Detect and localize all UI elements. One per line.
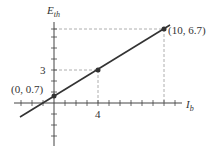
y-tick-label-3: 3: [40, 64, 46, 76]
point-4-3: [96, 68, 101, 73]
x-axis-label: Ib: [185, 98, 194, 113]
point-0-0.7: [52, 94, 57, 99]
x-tick-label-4: 4: [95, 108, 101, 120]
point-label-end: (10, 6.7): [168, 24, 206, 37]
point-10-6.7: [162, 27, 167, 32]
y-axis-label: Eth: [46, 4, 60, 19]
point-label-origin: (0, 0.7): [11, 83, 43, 96]
chart: Eth Ib 4 3 (0, 0.7) (10, 6.7): [0, 0, 215, 153]
guide-lines: [54, 29, 164, 103]
